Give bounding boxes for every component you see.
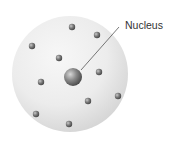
nucleus-label: Nucleus bbox=[125, 19, 163, 31]
electron bbox=[85, 98, 91, 104]
electron bbox=[66, 121, 72, 127]
electron bbox=[56, 55, 62, 61]
electron bbox=[38, 79, 44, 85]
electron bbox=[33, 111, 39, 117]
electron bbox=[94, 32, 100, 38]
electron bbox=[96, 69, 102, 75]
electron bbox=[29, 43, 35, 49]
electron bbox=[115, 93, 121, 99]
electron bbox=[69, 24, 75, 30]
nucleus bbox=[64, 68, 82, 86]
